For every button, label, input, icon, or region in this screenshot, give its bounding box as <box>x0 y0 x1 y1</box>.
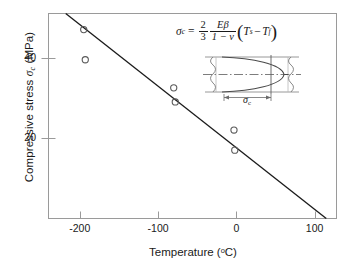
equation-lhs-subscript: c <box>182 27 185 36</box>
x-tick-label: -100 <box>128 222 188 234</box>
trend-line <box>66 14 327 219</box>
y-axis-sigma-subscript: c <box>28 67 37 71</box>
chart-figure: σc = 2 3 Eβ 1 − ν ( Ts − Tf ) σc -200 -1… <box>0 0 351 271</box>
data-point <box>82 57 88 63</box>
axis-frame <box>49 14 337 219</box>
inset-sigma-subscript: c <box>248 99 251 107</box>
paren-close: ) <box>271 23 277 40</box>
y-axis-title: Compressive stress σc (MPa) <box>23 7 37 207</box>
fraction-numerator: Eβ <box>215 20 231 31</box>
x-axis-ticks <box>81 212 316 219</box>
equation-term-ts-subscript: s <box>250 27 253 36</box>
data-point <box>231 127 237 133</box>
x-tick-label: 100 <box>285 222 345 234</box>
y-axis-unit: (MPa) <box>23 32 35 67</box>
x-tick-label: 0 <box>206 222 266 234</box>
inset-stress-label: σc <box>243 94 251 107</box>
equation-minus: − <box>254 25 261 37</box>
x-axis-title: Temperature (oC) <box>48 246 338 258</box>
equation-equals: = <box>188 25 195 37</box>
inset-diagram <box>203 55 301 101</box>
equation-annotation: σc = 2 3 Eβ 1 − ν ( Ts − Tf ) <box>176 20 277 43</box>
y-axis-title-text: Compressive stress <box>23 76 35 182</box>
data-point <box>171 85 177 91</box>
fraction-two-thirds: 2 3 <box>199 20 208 43</box>
x-axis-title-text: Temperature ( <box>149 246 221 258</box>
fraction-denominator: 1 − ν <box>210 31 236 43</box>
fraction-modulus-poisson: Eβ 1 − ν <box>210 20 236 43</box>
fraction-numerator: 2 <box>199 20 208 31</box>
x-tick-label: -200 <box>50 222 110 234</box>
x-axis-unit: C) <box>225 246 237 258</box>
data-point <box>232 147 238 153</box>
fraction-denominator: 3 <box>199 31 208 43</box>
y-axis-sigma: σ <box>23 70 35 76</box>
